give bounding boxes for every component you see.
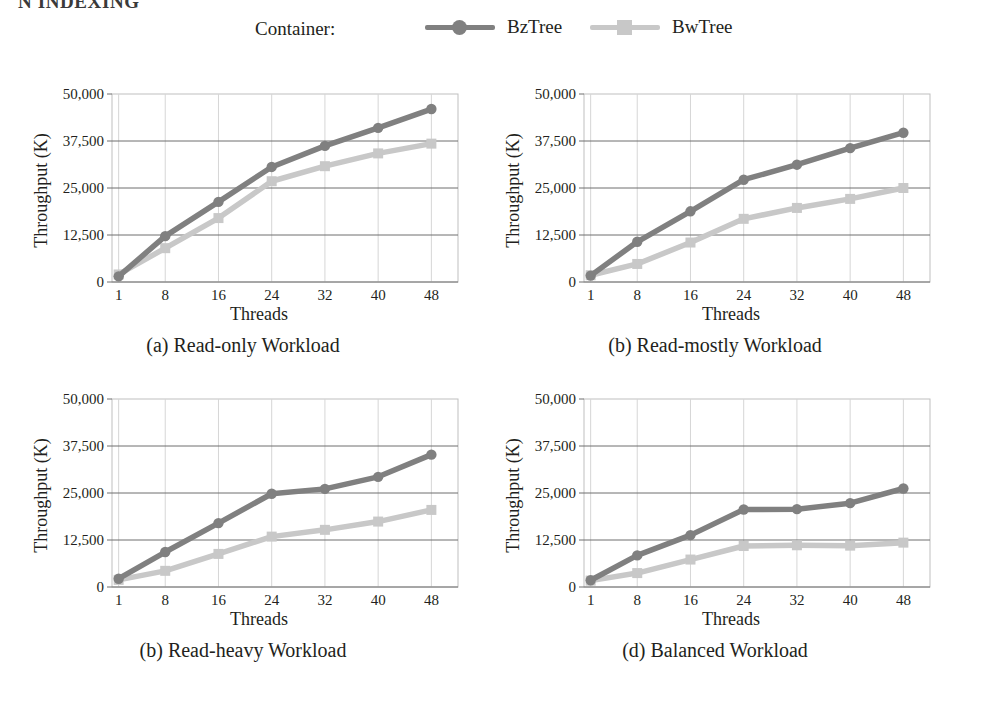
x-tick-label: 1 (115, 287, 123, 303)
data-point-marker (685, 555, 695, 565)
y-tick-label: 37,500 (63, 133, 104, 149)
data-point-marker (266, 162, 276, 172)
y-axis-label-b: Throughput (K) (502, 96, 524, 286)
data-point-marker (213, 518, 223, 528)
data-point-marker (160, 547, 170, 557)
y-tick-label: 25,000 (535, 180, 576, 196)
x-tick-label: 48 (424, 592, 439, 608)
legend-swatch-bwtree (590, 16, 660, 38)
data-point-marker (113, 574, 123, 584)
data-point-marker (685, 206, 695, 216)
plot-area-c: 012,50025,00037,50050,000181624324048 (64, 391, 464, 621)
plot-area-d: 012,50025,00037,50050,000181624324048 (536, 391, 936, 621)
plot-area-b: 012,50025,00037,50050,000181624324048 (536, 86, 936, 316)
y-tick-label: 25,000 (535, 485, 576, 501)
data-point-marker (898, 183, 908, 193)
chart-svg-d: 012,50025,00037,50050,000181624324048 (536, 391, 936, 621)
data-point-marker (426, 139, 436, 149)
x-tick-label: 16 (683, 287, 699, 303)
data-point-marker (792, 159, 802, 169)
data-point-marker (845, 143, 855, 153)
subplot-b: Throughput (K) 012,50025,00037,50050,000… (480, 56, 950, 379)
x-tick-label: 32 (789, 592, 804, 608)
data-point-marker (160, 231, 170, 241)
data-point-marker (113, 271, 123, 281)
x-tick-label: 48 (424, 287, 439, 303)
data-point-marker (373, 472, 383, 482)
x-tick-label: 40 (843, 592, 858, 608)
x-tick-label: 48 (896, 287, 911, 303)
data-point-marker (738, 175, 748, 185)
y-tick-label: 0 (97, 274, 105, 290)
data-point-marker (213, 197, 223, 207)
y-axis-label-d: Throughput (K) (502, 401, 524, 591)
clipped-section-header: N INDEXING (18, 0, 140, 13)
series-bwtree (114, 139, 437, 280)
series-bwtree (586, 538, 909, 586)
x-tick-label: 1 (115, 592, 123, 608)
x-tick-label: 24 (736, 592, 752, 608)
data-point-marker (685, 238, 695, 248)
legend-entry-bztree: BzTree (425, 16, 562, 38)
data-point-marker (845, 541, 855, 551)
subplot-a: Throughput (K) 012,50025,00037,50050,000… (8, 56, 478, 379)
subplot-caption-d: (d) Balanced Workload (480, 639, 950, 662)
data-point-marker (898, 538, 908, 548)
legend-swatch-bztree (425, 16, 495, 38)
data-point-marker (898, 128, 908, 138)
subplot-caption-c: (b) Read-heavy Workload (8, 639, 478, 662)
y-tick-label: 50,000 (535, 86, 576, 102)
data-point-marker (739, 214, 749, 224)
x-tick-label: 8 (161, 592, 169, 608)
legend-title: Container: (255, 18, 335, 40)
y-tick-label: 0 (97, 579, 105, 595)
subplot-caption-a: (a) Read-only Workload (8, 334, 478, 357)
data-point-marker (632, 568, 642, 578)
data-point-marker (426, 505, 436, 515)
data-point-marker (792, 504, 802, 514)
y-tick-label: 12,500 (535, 532, 576, 548)
data-point-marker (792, 203, 802, 213)
x-tick-label: 24 (264, 287, 280, 303)
series-bwtree (114, 505, 437, 585)
x-tick-label: 40 (371, 287, 386, 303)
y-tick-label: 12,500 (535, 227, 576, 243)
y-tick-label: 25,000 (63, 485, 104, 501)
square-marker-icon (617, 20, 632, 35)
data-point-marker (845, 194, 855, 204)
legend-label-bwtree: BwTree (672, 16, 733, 38)
data-point-marker (213, 213, 223, 223)
y-tick-label: 37,500 (535, 133, 576, 149)
data-point-marker (267, 176, 277, 186)
x-tick-label: 16 (211, 592, 227, 608)
y-tick-label: 12,500 (63, 532, 104, 548)
data-point-marker (266, 489, 276, 499)
data-point-marker (738, 504, 748, 514)
data-point-marker (739, 541, 749, 551)
x-tick-label: 8 (633, 287, 641, 303)
y-axis-label-c: Throughput (K) (30, 401, 52, 591)
data-point-marker (320, 161, 330, 171)
x-tick-label: 40 (371, 592, 386, 608)
series-bztree (113, 104, 436, 282)
x-axis-label-a: Threads (64, 304, 454, 325)
y-tick-label: 50,000 (63, 391, 104, 407)
data-point-marker (632, 259, 642, 269)
data-point-marker (685, 530, 695, 540)
data-point-marker (320, 525, 330, 535)
data-point-marker (898, 483, 908, 493)
x-tick-label: 16 (211, 287, 227, 303)
x-tick-label: 48 (896, 592, 911, 608)
data-point-marker (267, 532, 277, 542)
x-tick-label: 8 (161, 287, 169, 303)
data-point-marker (426, 104, 436, 114)
x-axis-label-c: Threads (64, 609, 454, 630)
y-tick-label: 37,500 (535, 438, 576, 454)
data-point-marker (426, 449, 436, 459)
data-point-marker (320, 484, 330, 494)
legend-entry-bwtree: BwTree (590, 16, 733, 38)
x-tick-label: 16 (683, 592, 699, 608)
x-tick-label: 32 (789, 287, 804, 303)
series-bztree (585, 128, 908, 281)
subplot-grid: Throughput (K) 012,50025,00037,50050,000… (0, 56, 982, 702)
